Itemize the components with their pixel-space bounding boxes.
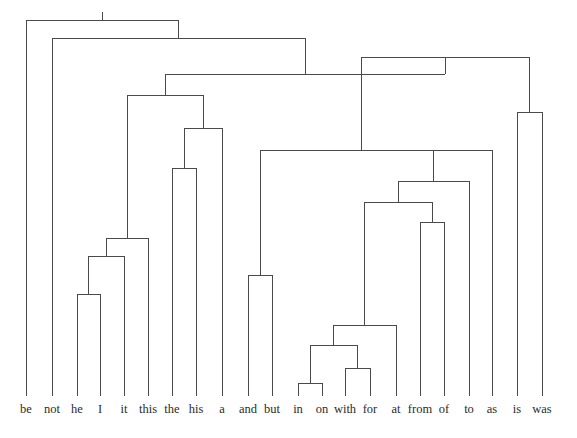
- leaf-label-from: from: [408, 402, 432, 416]
- leaf-label-was: was: [532, 402, 551, 416]
- leaf-label-with: with: [334, 402, 356, 416]
- leaf-label-be: be: [20, 402, 32, 416]
- leaf-label-at: at: [391, 402, 400, 416]
- leaf-label-but: but: [264, 402, 280, 416]
- leaf-label-on: on: [316, 402, 329, 416]
- leaf-label-a: a: [219, 402, 225, 416]
- leaf-label-the: the: [164, 402, 179, 416]
- leaf-label-as: as: [487, 402, 497, 416]
- leaf-label-his: his: [189, 402, 204, 416]
- leaf-label-in: in: [293, 402, 303, 416]
- dendrogram-plot: [0, 0, 577, 438]
- leaf-label-not: not: [44, 402, 60, 416]
- leaf-label-of: of: [439, 402, 449, 416]
- leaf-label-this: this: [139, 402, 157, 416]
- leaf-label-for: for: [363, 402, 378, 416]
- leaf-label-to: to: [464, 402, 474, 416]
- leaf-label-he: he: [71, 402, 83, 416]
- dendrogram-figure: benotheIitthisthehisaandbutinonwithforat…: [0, 0, 577, 438]
- leaf-label-i: I: [98, 402, 102, 416]
- leaf-label-it: it: [121, 402, 128, 416]
- leaf-label-and: and: [239, 402, 257, 416]
- leaf-label-is: is: [513, 402, 521, 416]
